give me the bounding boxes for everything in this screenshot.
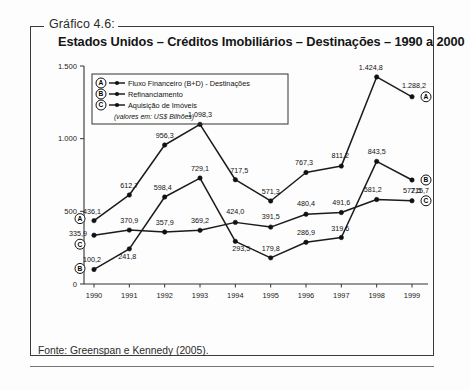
- svg-text:A: A: [78, 215, 83, 222]
- legend-units-note: (valores em: US$ Bilhões): [114, 113, 194, 121]
- data-point-label: 319,6: [331, 224, 349, 233]
- figure-caption-tag: Gráfico 4.6:: [46, 17, 118, 31]
- data-point: [339, 210, 343, 214]
- data-point: [304, 170, 308, 174]
- data-point-label: 179,8: [262, 244, 280, 253]
- x-axis-tick-label: 1991: [121, 291, 137, 300]
- svg-text:A: A: [99, 79, 104, 86]
- data-point-label: 491,6: [332, 198, 350, 207]
- svg-text:B: B: [78, 265, 83, 272]
- data-point-label: 571,3: [262, 187, 280, 196]
- x-axis-tick-label: 1998: [368, 291, 384, 300]
- data-point-label: 811,2: [332, 151, 349, 160]
- data-point: [233, 239, 237, 243]
- series-badge-endpoint-b: B: [421, 175, 431, 185]
- series-badge-endpoint-c: C: [421, 196, 431, 206]
- data-point: [92, 267, 96, 271]
- data-point-label: 767,3: [295, 158, 313, 167]
- x-axis-ticks: 1990199119921993199419951996199719981999: [86, 284, 420, 300]
- data-point-label: 370,9: [120, 216, 138, 225]
- y-axis-tick-label: 500: [64, 207, 77, 216]
- data-point: [410, 178, 414, 182]
- x-axis-tick-label: 1993: [192, 291, 208, 300]
- data-point-label: 369,2: [191, 216, 209, 225]
- svg-text:B: B: [424, 176, 429, 183]
- legend-label: Refinanciamento: [128, 90, 183, 99]
- data-point-label: 436,1: [83, 207, 101, 216]
- data-point-label: 357,9: [156, 218, 174, 227]
- x-axis-tick-label: 1992: [156, 291, 172, 300]
- data-point-label: 241,8: [118, 252, 136, 261]
- data-point: [127, 228, 131, 232]
- data-point-label: 100,2: [83, 255, 101, 264]
- data-point-label: 335,9: [69, 229, 87, 238]
- data-point: [304, 240, 308, 244]
- data-point: [233, 220, 237, 224]
- series-badge-legend-c: C: [96, 100, 106, 110]
- data-point: [374, 197, 378, 201]
- x-axis-tick-label: 1995: [262, 291, 278, 300]
- data-point: [198, 228, 202, 232]
- legend-marker-sample: [115, 81, 119, 85]
- series-badge-start-a: A: [75, 214, 85, 224]
- series-badge-legend-a: A: [96, 78, 106, 88]
- series-badge-endpoint-a: A: [421, 92, 431, 102]
- figure-container: Gráfico 4.6: Estados Unidos – Créditos I…: [0, 0, 470, 390]
- data-point: [268, 225, 272, 229]
- series-badge-start-b: B: [75, 263, 85, 273]
- figure-frame-top-left: [30, 26, 44, 27]
- data-point-label: 424,0: [226, 207, 244, 216]
- legend-label: Fluxo Financeiro (B+D) - Destinações: [128, 79, 250, 88]
- data-point: [304, 212, 308, 216]
- data-point: [162, 195, 166, 199]
- series-badge-start-c: C: [75, 239, 85, 249]
- x-axis-tick-label: 1997: [333, 291, 349, 300]
- data-point-label: 1.288,2: [402, 81, 426, 90]
- x-axis-tick-label: 1994: [227, 291, 243, 300]
- y-axis-tick-label: 1.000: [58, 134, 77, 143]
- svg-text:C: C: [78, 241, 83, 248]
- data-point: [92, 233, 96, 237]
- data-point-label: 293,5: [232, 244, 250, 253]
- data-point-label: 286,9: [297, 228, 315, 237]
- figure-frame-top-right: [108, 26, 434, 27]
- svg-text:C: C: [424, 197, 429, 204]
- data-point: [127, 247, 131, 251]
- legend-marker-sample: [115, 103, 119, 107]
- data-point-label: 391,5: [262, 212, 280, 221]
- data-point: [162, 230, 166, 234]
- data-point-label: 480,4: [297, 199, 315, 208]
- data-point-label: 581,2: [364, 185, 382, 194]
- data-point-label: 598,4: [154, 183, 172, 192]
- y-axis-ticks: 05001.0001.500: [58, 62, 84, 289]
- data-point: [410, 199, 414, 203]
- x-axis-tick-label: 1996: [298, 291, 314, 300]
- chart-legend: AFluxo Financeiro (B+D) - DestinaçõesBRe…: [92, 74, 288, 124]
- data-point-label: 956,3: [156, 131, 174, 140]
- x-axis-tick-label: 1990: [86, 291, 102, 300]
- data-point-label: 843,5: [368, 147, 386, 156]
- data-point-label: 612,7: [120, 181, 138, 190]
- svg-text:C: C: [99, 101, 104, 108]
- legend-label: Aquisição de Imóveis: [128, 101, 197, 110]
- data-point: [162, 143, 166, 147]
- data-point: [374, 75, 378, 79]
- x-axis-tick-label: 1999: [404, 291, 420, 300]
- svg-text:A: A: [424, 93, 429, 100]
- data-point: [410, 95, 414, 99]
- series-badge-legend-b: B: [96, 89, 106, 99]
- data-point: [233, 178, 237, 182]
- data-point: [127, 193, 131, 197]
- data-point: [92, 218, 96, 222]
- data-point: [268, 199, 272, 203]
- data-point: [374, 159, 378, 163]
- legend-marker-sample: [115, 92, 119, 96]
- data-point-label: 1.424,8: [359, 63, 383, 72]
- line-chart: 05001.0001.500 1990199119921993199419951…: [30, 62, 434, 324]
- data-point: [268, 256, 272, 260]
- data-point-label: 717,5: [230, 166, 248, 175]
- data-point-label: 572,5: [403, 186, 421, 195]
- source-note: Fonte: Greenspan e Kennedy (2005).: [38, 345, 209, 356]
- data-point: [339, 164, 343, 168]
- y-axis-tick-label: 1.500: [58, 62, 77, 71]
